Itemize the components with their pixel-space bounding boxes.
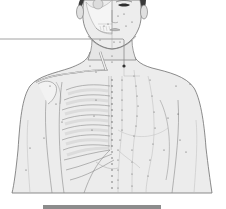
anatomy-illustration — [0, 0, 226, 209]
bottom-bar — [43, 205, 161, 209]
